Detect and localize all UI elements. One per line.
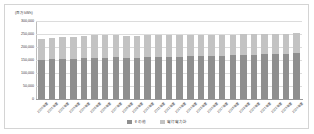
bar-segment-電灯電力計[interactable]: [187, 35, 194, 56]
bar-segment-電灯電力計[interactable]: [176, 35, 183, 57]
bar-segment-その他[interactable]: [240, 55, 247, 99]
bar-stack[interactable]: [59, 37, 66, 99]
bar-segment-その他[interactable]: [283, 54, 290, 100]
y-axis-tick-label: 200,000: [21, 45, 34, 49]
bar-stack[interactable]: [49, 38, 56, 99]
bar-segment-電灯電力計[interactable]: [208, 35, 215, 56]
legend-swatch-icon: [160, 120, 165, 124]
x-axis-tick-label: 2017年度: [216, 101, 229, 114]
bar-segment-電灯電力計[interactable]: [102, 35, 109, 58]
bar-segment-その他[interactable]: [176, 57, 183, 99]
legend-item[interactable]: 電灯電力計: [160, 119, 187, 124]
bar-segment-その他[interactable]: [219, 56, 226, 99]
y-axis-tick-label: 300,000: [21, 19, 34, 23]
bar-segment-その他[interactable]: [113, 57, 120, 99]
plot-area: 050,000100,000150,000200,000250,000300,0…: [36, 21, 302, 99]
bar-stack[interactable]: [219, 35, 226, 99]
bar-segment-その他[interactable]: [166, 57, 173, 99]
bar-stack[interactable]: [70, 37, 77, 99]
bar-segment-その他[interactable]: [155, 57, 162, 99]
bar-segment-その他[interactable]: [187, 56, 194, 99]
bar-stack[interactable]: [272, 34, 279, 99]
x-axis-tick-label: 2018年度: [227, 101, 240, 114]
bar-stack[interactable]: [283, 34, 290, 99]
bar-stack[interactable]: [113, 35, 120, 99]
bar-segment-電灯電力計[interactable]: [251, 34, 258, 55]
bar-segment-電灯電力計[interactable]: [113, 35, 120, 58]
x-axis-tick-label: 2006年度: [99, 101, 112, 114]
bar-segment-その他[interactable]: [102, 58, 109, 99]
bar-stack[interactable]: [102, 35, 109, 99]
bar-segment-電灯電力計[interactable]: [219, 35, 226, 56]
bar-segment-その他[interactable]: [144, 57, 151, 99]
bar-stack[interactable]: [261, 34, 268, 99]
bar-stack[interactable]: [91, 35, 98, 99]
bar-segment-その他[interactable]: [59, 59, 66, 99]
legend-label: 電灯電力計: [167, 119, 187, 124]
bar-segment-電灯電力計[interactable]: [91, 35, 98, 58]
bar-segment-その他[interactable]: [49, 59, 56, 99]
legend-label: その他: [134, 119, 146, 124]
bar-segment-電灯電力計[interactable]: [49, 38, 56, 60]
x-axis-tick-label: 2013年度: [174, 101, 187, 114]
x-axis-tick-label: 2003年度: [67, 101, 80, 114]
y-axis-tick-label: 50,000: [23, 84, 34, 88]
bar-segment-電灯電力計[interactable]: [261, 34, 268, 54]
bar-segment-電灯電力計[interactable]: [123, 36, 130, 58]
bar-stack[interactable]: [123, 36, 130, 99]
y-axis-tick-label: 100,000: [21, 71, 34, 75]
y-axis-tick-label: 150,000: [21, 58, 34, 62]
bar-segment-電灯電力計[interactable]: [70, 37, 77, 59]
bar-segment-その他[interactable]: [134, 58, 141, 99]
bar-segment-電灯電力計[interactable]: [230, 35, 237, 56]
bar-stack[interactable]: [144, 35, 151, 99]
bar-stack[interactable]: [187, 35, 194, 99]
y-gridline: [36, 21, 302, 22]
bar-segment-その他[interactable]: [251, 55, 258, 99]
bar-stack[interactable]: [230, 35, 237, 99]
bar-segment-その他[interactable]: [208, 56, 215, 99]
legend-item[interactable]: その他: [127, 119, 146, 124]
bar-segment-電灯電力計[interactable]: [81, 36, 88, 58]
y-axis-tick-label: 250,000: [21, 32, 34, 36]
bar-segment-電灯電力計[interactable]: [134, 36, 141, 58]
bar-stack[interactable]: [155, 35, 162, 99]
bar-segment-電灯電力計[interactable]: [293, 33, 300, 53]
bar-segment-電灯電力計[interactable]: [59, 37, 66, 59]
bar-segment-電灯電力計[interactable]: [155, 35, 162, 57]
bar-segment-電灯電力計[interactable]: [38, 39, 45, 60]
bar-stack[interactable]: [81, 36, 88, 99]
bar-segment-その他[interactable]: [70, 59, 77, 99]
bar-segment-電灯電力計[interactable]: [240, 34, 247, 55]
bar-segment-その他[interactable]: [293, 53, 300, 99]
x-axis-tick-label: 2002年度: [56, 101, 69, 114]
bar-segment-その他[interactable]: [38, 60, 45, 99]
bar-segment-その他[interactable]: [91, 58, 98, 99]
bar-stack[interactable]: [134, 36, 141, 99]
bar-segment-電灯電力計[interactable]: [166, 35, 173, 57]
bar-segment-電灯電力計[interactable]: [272, 34, 279, 54]
bar-stack[interactable]: [166, 35, 173, 99]
bar-segment-電灯電力計[interactable]: [198, 35, 205, 56]
bar-stack[interactable]: [198, 35, 205, 99]
x-axis-tick-label: 2024年度: [291, 101, 304, 114]
bar-segment-その他[interactable]: [123, 58, 130, 99]
bar-segment-その他[interactable]: [261, 54, 268, 99]
chart-card: (百万kWh) 050,000100,000150,000200,000250,…: [4, 4, 309, 129]
bar-stack[interactable]: [208, 35, 215, 99]
bar-stack[interactable]: [176, 35, 183, 99]
bar-segment-その他[interactable]: [230, 55, 237, 99]
bar-segment-その他[interactable]: [198, 56, 205, 99]
bar-stack[interactable]: [251, 34, 258, 99]
bar-stack[interactable]: [38, 39, 45, 99]
bar-segment-電灯電力計[interactable]: [144, 35, 151, 57]
y-axis-unit-label: (百万kWh): [15, 10, 33, 15]
bar-stack[interactable]: [240, 34, 247, 99]
x-axis-tick-label: 2007年度: [110, 101, 123, 114]
x-axis-line: [36, 99, 303, 100]
bar-segment-その他[interactable]: [272, 54, 279, 99]
x-axis-tick-label: 2021年度: [259, 101, 272, 114]
bar-segment-その他[interactable]: [81, 58, 88, 99]
bar-stack[interactable]: [293, 33, 300, 99]
bar-segment-電灯電力計[interactable]: [283, 34, 290, 54]
